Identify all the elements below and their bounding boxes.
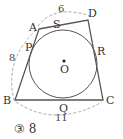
label-p: P bbox=[25, 41, 33, 54]
label-o: O bbox=[60, 63, 69, 76]
label-s: S bbox=[53, 18, 61, 31]
label-c: C bbox=[106, 94, 114, 107]
length-bc: 11 bbox=[55, 112, 68, 123]
geometry-figure: A D B C P S R Q O 6 8 11 bbox=[0, 0, 123, 139]
label-b: B bbox=[3, 94, 11, 107]
length-ad: 6 bbox=[58, 3, 64, 14]
length-ab: 8 bbox=[9, 52, 15, 63]
label-a: A bbox=[28, 21, 38, 34]
answer: ③ 8 bbox=[14, 122, 36, 136]
answer-marker: ③ bbox=[14, 122, 25, 136]
label-d: D bbox=[88, 7, 97, 20]
answer-value: 8 bbox=[29, 122, 37, 136]
label-r: R bbox=[97, 45, 106, 58]
